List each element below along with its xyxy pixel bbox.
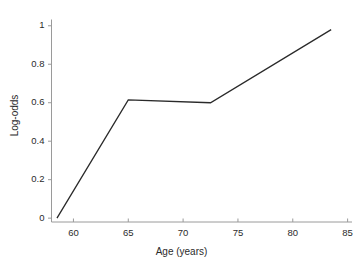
x-tick-label: 75 [218,227,258,238]
chart-figure: 00.20.40.60.81 606570758085 Age (years) … [0,0,363,267]
x-tick-label: 85 [328,227,363,238]
x-tick-label: 80 [273,227,313,238]
x-tick-label: 65 [108,227,148,238]
y-tick-label: 0 [0,212,45,223]
x-tick-label: 60 [53,227,93,238]
x-axis-title: Age (years) [0,246,363,257]
y-tick-label: 0.4 [0,135,45,146]
tick-marks-group [48,26,348,222]
y-tick-label: 0.8 [0,58,45,69]
y-axis-title: Log-odds [9,76,20,156]
data-series-group [57,30,331,219]
x-tick-label: 70 [163,227,203,238]
y-tick-label: 1 [0,19,45,30]
y-tick-label: 0.6 [0,96,45,107]
axes-group [52,20,353,223]
y-tick-label: 0.2 [0,173,45,184]
series-line [57,30,331,219]
